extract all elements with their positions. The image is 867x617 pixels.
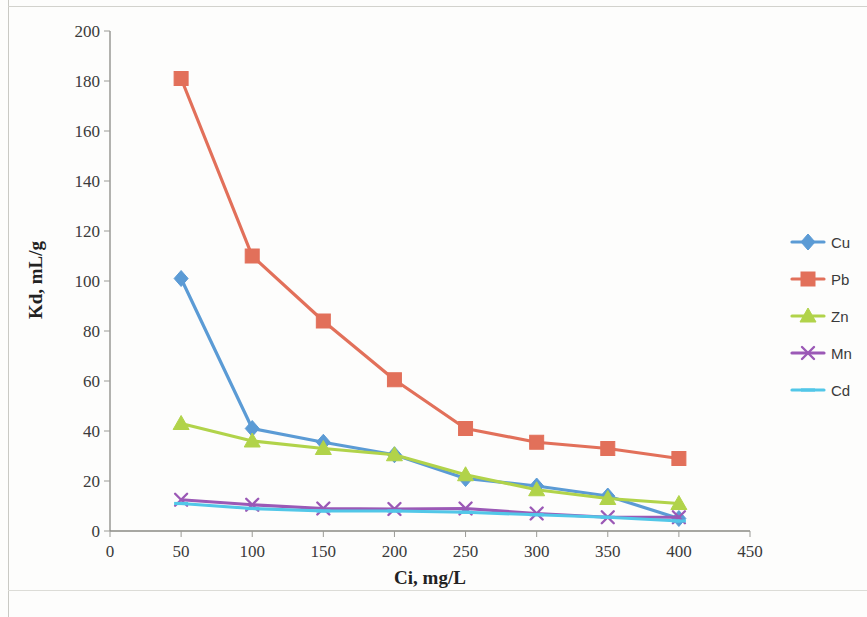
x-tick-label: 450 (737, 542, 763, 561)
chart-series-group (173, 72, 687, 527)
marker-square (672, 452, 686, 466)
series-pb (174, 72, 686, 466)
data-point-pb-250 (459, 422, 473, 436)
data-point-zn-50 (173, 416, 189, 430)
x-tick-label: 150 (311, 542, 337, 561)
y-tick-label: 180 (75, 72, 101, 91)
x-tick-label: 250 (453, 542, 479, 561)
series-line-cu (181, 279, 679, 519)
marker-diamond (174, 271, 188, 287)
x-tick-label: 350 (595, 542, 621, 561)
y-tick-label: 60 (83, 372, 100, 391)
x-tick-label: 50 (173, 542, 190, 561)
chart-canvas: 020406080100120140160180200 050100150200… (0, 0, 867, 617)
y-tick-label: 160 (75, 122, 101, 141)
x-axis-tick-labels: 050100150200250300350400450 (106, 531, 763, 561)
legend-entry-cu[interactable]: Cu (792, 234, 850, 251)
x-tick-label: 400 (666, 542, 692, 561)
marker-square (387, 373, 401, 387)
scanned-page: 020406080100120140160180200 050100150200… (0, 0, 867, 617)
legend-entry-zn[interactable]: Zn (792, 308, 849, 325)
legend-entry-mn[interactable]: Mn (792, 345, 852, 362)
legend-marker-pb (801, 272, 815, 286)
y-tick-label: 140 (75, 172, 101, 191)
line-chart: 020406080100120140160180200 050100150200… (0, 0, 867, 617)
marker-diamond (801, 234, 815, 250)
marker-square (801, 272, 815, 286)
data-point-pb-100 (245, 249, 259, 263)
y-tick-label: 20 (83, 472, 100, 491)
legend-marker-cu (801, 234, 815, 250)
y-axis-title: Kd, mL/g (25, 240, 46, 319)
data-point-pb-200 (387, 373, 401, 387)
data-point-pb-50 (174, 72, 188, 86)
x-tick-label: 0 (106, 542, 115, 561)
y-tick-label: 100 (75, 272, 101, 291)
marker-square (174, 72, 188, 86)
marker-square (245, 249, 259, 263)
y-tick-label: 80 (83, 322, 100, 341)
marker-square (459, 422, 473, 436)
legend-label-cu: Cu (831, 234, 850, 251)
x-axis-title: Ci, mg/L (394, 567, 466, 588)
legend-label-zn: Zn (831, 308, 849, 325)
data-point-cu-50 (174, 271, 188, 287)
y-tick-label: 120 (75, 222, 101, 241)
marker-triangle (173, 416, 189, 430)
series-line-pb (181, 79, 679, 459)
x-tick-label: 100 (239, 542, 265, 561)
marker-square (316, 314, 330, 328)
legend-label-cd: Cd (831, 382, 850, 399)
y-tick-label: 0 (92, 522, 101, 541)
legend-label-mn: Mn (831, 345, 852, 362)
data-point-pb-400 (672, 452, 686, 466)
legend-label-pb: Pb (831, 271, 849, 288)
x-tick-label: 300 (524, 542, 550, 561)
y-tick-label: 40 (83, 422, 100, 441)
series-cu (174, 271, 686, 527)
data-point-pb-300 (530, 435, 544, 449)
marker-square (601, 442, 615, 456)
data-point-pb-150 (316, 314, 330, 328)
y-tick-label: 200 (75, 22, 101, 41)
marker-square (530, 435, 544, 449)
legend-entry-cd[interactable]: Cd (792, 382, 850, 399)
chart-legend: CuPbZnMnCd (792, 234, 852, 399)
x-tick-label: 200 (382, 542, 408, 561)
data-point-pb-350 (601, 442, 615, 456)
y-axis-tick-labels: 020406080100120140160180200 (75, 22, 111, 541)
legend-entry-pb[interactable]: Pb (792, 271, 849, 288)
